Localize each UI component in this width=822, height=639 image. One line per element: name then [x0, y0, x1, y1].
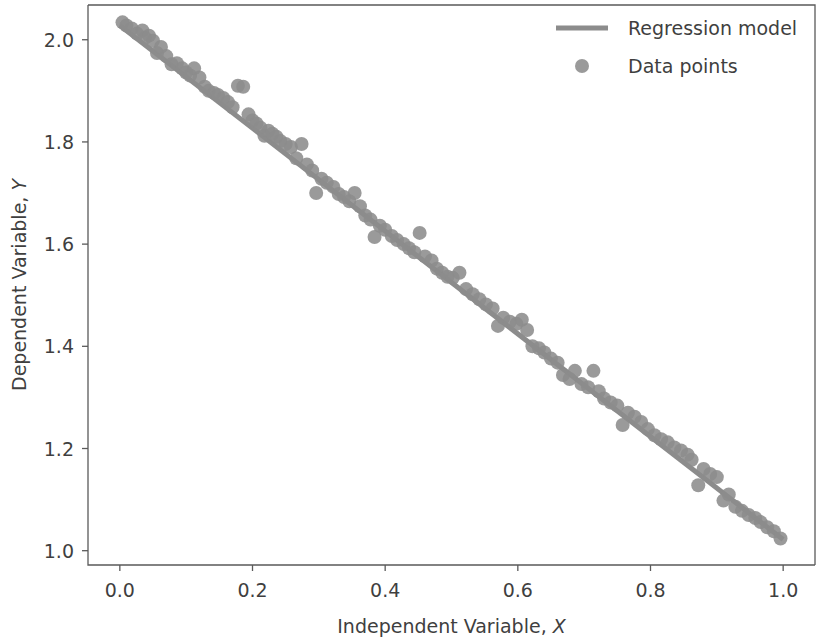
y-tick-label: 1.0: [44, 540, 74, 562]
x-tick-label: 0.2: [237, 579, 267, 601]
chart-figure: 0.00.20.40.60.81.01.01.21.41.61.82.0Inde…: [0, 0, 822, 639]
y-tick-label: 1.4: [44, 335, 74, 357]
data-point: [520, 323, 534, 337]
x-tick-label: 0.8: [635, 579, 665, 601]
data-point: [722, 487, 736, 501]
y-tick-label: 1.6: [44, 233, 74, 255]
x-tick-label: 1.0: [768, 579, 798, 601]
legend-marker-swatch: [575, 59, 589, 73]
y-tick-label: 1.2: [44, 438, 74, 460]
data-point: [452, 266, 466, 280]
data-point: [295, 137, 309, 151]
data-point: [710, 470, 724, 484]
data-point: [691, 478, 705, 492]
data-point: [309, 186, 323, 200]
data-point: [236, 80, 250, 94]
legend-label: Regression model: [628, 17, 797, 39]
data-point: [348, 186, 362, 200]
data-point: [486, 302, 500, 316]
data-point: [226, 100, 240, 114]
x-axis-label: Independent Variable, X: [337, 615, 566, 637]
x-tick-label: 0.0: [105, 579, 135, 601]
data-point: [616, 418, 630, 432]
y-tick-label: 1.8: [44, 131, 74, 153]
data-point: [685, 453, 699, 467]
x-tick-label: 0.6: [503, 579, 533, 601]
scatter-plot: 0.00.20.40.60.81.01.01.21.41.61.82.0Inde…: [0, 0, 822, 639]
data-point: [774, 531, 788, 545]
data-point: [413, 226, 427, 240]
data-point: [568, 364, 582, 378]
data-point: [586, 364, 600, 378]
y-axis-label: Dependent Variable, Y: [8, 178, 30, 391]
data-point: [551, 356, 565, 370]
x-tick-label: 0.4: [370, 579, 400, 601]
y-tick-label: 2.0: [44, 29, 74, 51]
legend-label: Data points: [628, 55, 738, 77]
